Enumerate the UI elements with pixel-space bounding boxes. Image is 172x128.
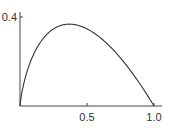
x-tick-label: 0.5 (79, 111, 94, 123)
chart: 0.51.00.4 (0, 0, 172, 128)
x-tick-label: 1.0 (146, 111, 161, 123)
series-line-curve (20, 24, 154, 106)
y-tick-label: 0.4 (2, 11, 17, 23)
